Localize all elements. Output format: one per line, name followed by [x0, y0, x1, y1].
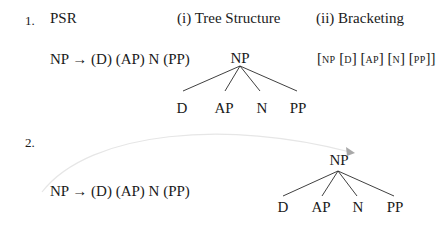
tree1-branches — [183, 66, 297, 91]
tree-branches — [0, 0, 436, 240]
curved-arrow-icon — [42, 134, 355, 192]
tree2-branches — [283, 171, 394, 196]
